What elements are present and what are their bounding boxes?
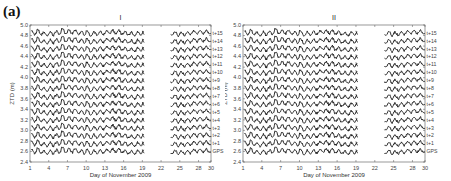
series-label: t+4 bbox=[213, 117, 220, 123]
series-tplus-11 bbox=[31, 60, 211, 68]
series-label: t+5 bbox=[213, 109, 220, 115]
x-tick-label: 19 bbox=[353, 165, 359, 171]
y-tick-label: 3.6 bbox=[233, 96, 241, 102]
x-tick-label: 10 bbox=[83, 165, 89, 171]
series-tplus-10 bbox=[244, 68, 425, 77]
x-tick-label: 16 bbox=[121, 165, 127, 171]
series-label: t+1 bbox=[213, 140, 220, 146]
series-tplus-12 bbox=[244, 52, 425, 60]
x-tick-label: 30 bbox=[208, 165, 214, 171]
y-tick-label: 3.4 bbox=[20, 106, 28, 112]
series-gps bbox=[244, 147, 425, 155]
x-tick-label: 16 bbox=[334, 165, 340, 171]
series-gps bbox=[31, 147, 211, 155]
panel-title: II bbox=[332, 14, 336, 21]
series-label: t+9 bbox=[213, 77, 220, 83]
y-axis-title: ZTD (m) bbox=[9, 82, 15, 104]
x-tick-label: 19 bbox=[139, 165, 145, 171]
y-tick-label: 3.8 bbox=[233, 85, 241, 91]
x-tick-label: 25 bbox=[391, 165, 397, 171]
y-tick-label: 3.4 bbox=[233, 106, 241, 112]
y-tick-label: 4.4 bbox=[233, 53, 241, 59]
y-axis-title: ZTD (m) bbox=[225, 82, 228, 104]
series-tplus-9 bbox=[31, 76, 211, 84]
series-tplus-4 bbox=[244, 115, 425, 123]
series-tplus-10 bbox=[31, 68, 211, 76]
series-tplus-8 bbox=[31, 84, 211, 92]
y-tick-label: 2.6 bbox=[20, 148, 28, 154]
x-tick-label: 13 bbox=[315, 165, 321, 171]
y-tick-label: 5.0 bbox=[233, 22, 241, 28]
x-tick-label: 25 bbox=[177, 165, 183, 171]
y-tick-label: 2.6 bbox=[233, 148, 241, 154]
x-tick-label: 7 bbox=[279, 165, 282, 171]
y-tick-label: 3.0 bbox=[233, 127, 241, 133]
y-tick-label: 2.4 bbox=[233, 159, 241, 165]
panel-title: I bbox=[120, 14, 122, 21]
series-label: t+3 bbox=[427, 125, 434, 131]
y-tick-label: 4.2 bbox=[20, 64, 28, 70]
x-tick-label: 7 bbox=[66, 165, 69, 171]
x-axis-title: Day of November 2009 bbox=[90, 172, 152, 178]
series-tplus-7 bbox=[31, 91, 211, 100]
y-tick-label: 2.8 bbox=[233, 138, 241, 144]
series-tplus-3 bbox=[31, 123, 211, 131]
x-tick-label: 10 bbox=[296, 165, 302, 171]
series-label: t+2 bbox=[213, 132, 220, 138]
series-tplus-4 bbox=[31, 115, 211, 123]
x-tick-label: 4 bbox=[47, 165, 50, 171]
x-tick-label: 28 bbox=[195, 165, 201, 171]
series-label: t+11 bbox=[427, 61, 437, 67]
x-tick-label: 1 bbox=[241, 165, 244, 171]
x-tick-label: 4 bbox=[260, 165, 263, 171]
series-tplus-5 bbox=[31, 108, 211, 116]
series-label: t+11 bbox=[213, 61, 223, 67]
series-label: t+3 bbox=[213, 125, 220, 131]
x-tick-label: 22 bbox=[372, 165, 378, 171]
series-tplus-5 bbox=[244, 108, 425, 116]
series-label: t+15 bbox=[213, 30, 223, 36]
series-tplus-7 bbox=[244, 92, 425, 101]
series-tplus-2 bbox=[31, 131, 211, 140]
series-label: t+14 bbox=[213, 38, 223, 44]
series-tplus-14 bbox=[244, 36, 425, 45]
x-axis-title: Day of November 2009 bbox=[303, 172, 365, 178]
y-tick-label: 4.8 bbox=[233, 32, 241, 38]
series-tplus-1 bbox=[244, 139, 425, 147]
series-label: t+14 bbox=[427, 38, 437, 44]
series-label: t+15 bbox=[427, 30, 437, 36]
series-tplus-1 bbox=[31, 139, 211, 147]
series-label: t+13 bbox=[213, 46, 223, 52]
series-label: GPS bbox=[427, 148, 438, 154]
x-tick-label: 22 bbox=[158, 165, 164, 171]
series-label: t+6 bbox=[427, 101, 434, 107]
y-tick-label: 4.0 bbox=[233, 74, 241, 80]
x-tick-label: 28 bbox=[409, 165, 415, 171]
y-tick-label: 4.6 bbox=[20, 43, 28, 49]
series-label: t+10 bbox=[213, 69, 223, 75]
y-tick-label: 4.6 bbox=[233, 43, 241, 49]
y-tick-label: 4.2 bbox=[233, 64, 241, 70]
series-tplus-15 bbox=[31, 28, 211, 37]
series-label: GPS bbox=[213, 148, 224, 154]
chart-panel-i: I2.42.62.83.03.23.43.63.84.04.24.44.64.8… bbox=[0, 0, 226, 181]
x-tick-label: 30 bbox=[422, 165, 428, 171]
series-label: t+2 bbox=[427, 132, 434, 138]
series-label: t+12 bbox=[427, 53, 437, 59]
series-tplus-3 bbox=[244, 123, 425, 131]
series-tplus-12 bbox=[31, 52, 211, 60]
series-label: t+4 bbox=[427, 117, 434, 123]
series-label: t+7 bbox=[213, 93, 220, 99]
x-tick-label: 13 bbox=[102, 165, 108, 171]
series-label: t+10 bbox=[427, 69, 437, 75]
y-tick-label: 2.8 bbox=[20, 138, 28, 144]
series-label: t+8 bbox=[427, 85, 434, 91]
y-tick-label: 3.2 bbox=[233, 117, 241, 123]
series-tplus-15 bbox=[244, 28, 425, 37]
series-tplus-11 bbox=[244, 60, 425, 68]
series-tplus-13 bbox=[31, 44, 211, 53]
x-tick-label: 1 bbox=[28, 165, 31, 171]
series-label: t+9 bbox=[427, 77, 434, 83]
chart-panel-ii: II2.42.62.83.03.23.43.63.84.04.24.44.64.… bbox=[225, 0, 451, 181]
series-label: t+5 bbox=[427, 109, 434, 115]
